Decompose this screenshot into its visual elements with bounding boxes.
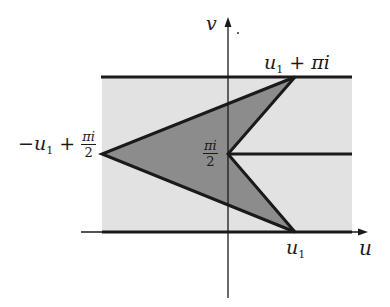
stray-dot: [237, 32, 239, 34]
label-u1: u1: [286, 238, 305, 260]
label-pi-i-over-2: πi2: [203, 139, 218, 168]
fraction-numerator: πi: [81, 130, 96, 145]
label-plus: +: [53, 132, 81, 154]
fraction: πi2: [203, 139, 218, 168]
label-var: u: [286, 236, 298, 258]
fraction-denominator: 2: [81, 145, 96, 159]
fraction-numerator: πi: [203, 139, 218, 154]
u-axis-label: u: [359, 238, 372, 258]
label-var: u: [34, 132, 46, 154]
label-rest: + πi: [283, 51, 330, 73]
u-axis-arrow-icon: [358, 229, 368, 236]
label-u1-plus-pi-i: u1 + πi: [264, 53, 330, 75]
label-var: u: [264, 51, 276, 73]
label-sub: 1: [298, 248, 305, 261]
fraction: πi2: [81, 130, 96, 159]
label-neg-u1-plus-pi-i-over-2: −u1 + πi2: [18, 130, 96, 159]
fraction-denominator: 2: [203, 154, 218, 168]
v-axis-arrow-icon: [225, 17, 232, 27]
label-prefix: −: [18, 132, 34, 154]
v-axis-label: v: [206, 14, 217, 33]
